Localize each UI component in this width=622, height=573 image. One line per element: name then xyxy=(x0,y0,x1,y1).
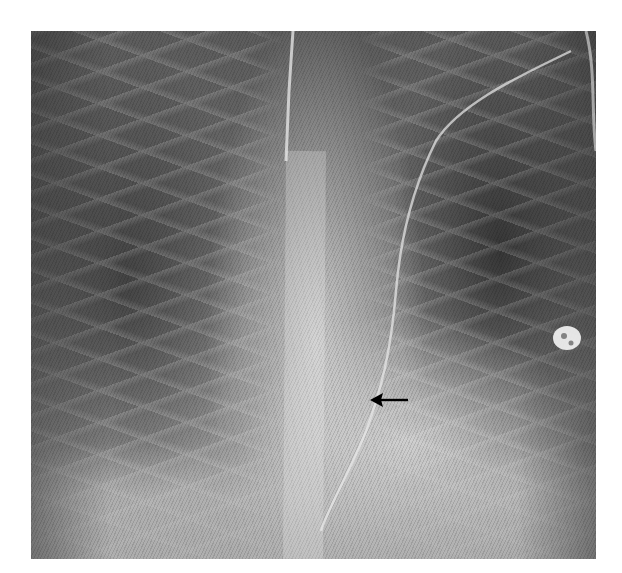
tube-line xyxy=(286,31,293,161)
arrow-left-icon xyxy=(370,393,408,407)
ecg-electrode xyxy=(553,326,581,350)
lines-and-tubes xyxy=(31,31,596,559)
central-line xyxy=(321,51,571,531)
chest-xray-image xyxy=(31,31,596,559)
spine xyxy=(303,151,306,559)
monitor-lead xyxy=(586,31,596,151)
